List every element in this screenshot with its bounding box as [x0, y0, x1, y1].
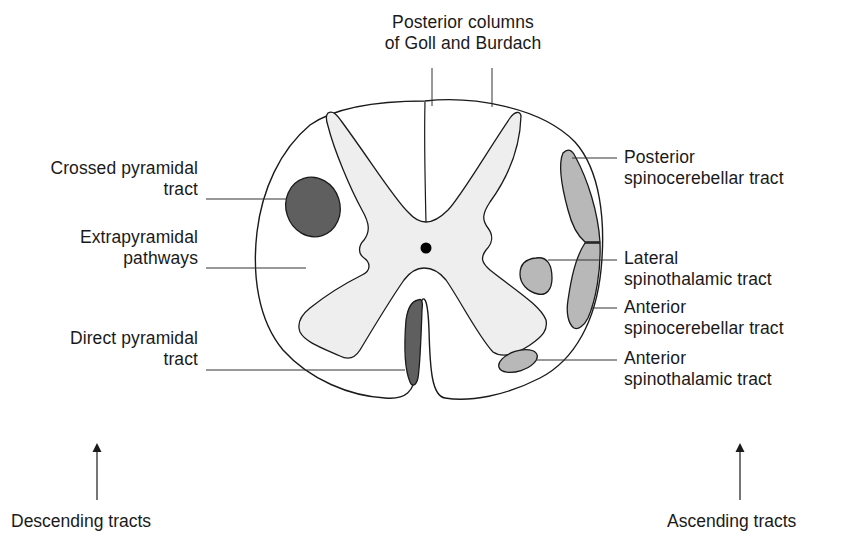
label-anterior-spinocerebellar-tract: Anterior spinocerebellar tract	[624, 297, 784, 339]
label-line: spinocerebellar tract	[624, 318, 784, 339]
label-line: tract	[0, 349, 198, 370]
label-anterior-spinothalamic-tract: Anterior spinothalamic tract	[624, 348, 772, 390]
label-line: Lateral	[624, 248, 772, 269]
label-line: spinocerebellar tract	[624, 168, 784, 189]
label-posterior-columns: Posterior columns of Goll and Burdach	[380, 12, 546, 54]
label-line: Extrapyramidal	[0, 227, 198, 248]
label-line: Posterior columns	[380, 12, 546, 33]
ascending-up-arrow-icon	[736, 443, 745, 500]
central-canal	[421, 243, 432, 254]
label-line: spinothalamic tract	[624, 269, 772, 290]
label-line: Anterior	[624, 297, 784, 318]
label-line: Crossed pyramidal	[0, 158, 198, 179]
label-line: of Goll and Burdach	[380, 33, 546, 54]
label-descending-tracts: Descending tracts	[11, 511, 151, 532]
direct-pyramidal-tract	[405, 299, 422, 385]
label-ascending-tracts: Ascending tracts	[667, 511, 796, 532]
label-line: Direct pyramidal	[0, 328, 198, 349]
label-lateral-spinothalamic-tract: Lateral spinothalamic tract	[624, 248, 772, 290]
label-line: Posterior	[624, 147, 784, 168]
label-posterior-spinocerebellar-tract: Posterior spinocerebellar tract	[624, 147, 784, 189]
label-line: Anterior	[624, 348, 772, 369]
descending-up-arrow-icon	[93, 443, 102, 500]
label-extrapyramidal-pathways: Extrapyramidal pathways	[0, 227, 198, 269]
label-direct-pyramidal-tract: Direct pyramidal tract	[0, 328, 198, 370]
label-line: tract	[0, 179, 198, 200]
label-crossed-pyramidal-tract: Crossed pyramidal tract	[0, 158, 198, 200]
label-line: spinothalamic tract	[624, 369, 772, 390]
label-line: pathways	[0, 248, 198, 269]
